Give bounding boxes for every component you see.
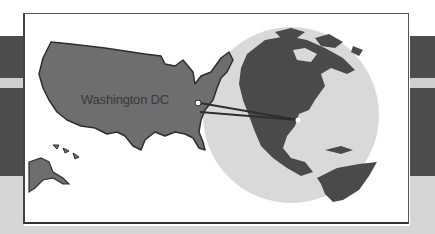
right-dark-band [410,36,435,78]
left-dark-band-2 [0,58,24,78]
left-light-stripe [0,78,24,88]
left-dark-band-3 [0,88,24,176]
bottom-strip [0,226,435,234]
globe-marker-icon [296,118,301,123]
us-map-icon [29,42,233,192]
right-dark-band-2 [410,88,435,176]
dc-marker-icon [195,100,201,106]
right-light-stripe [410,78,435,88]
map-illustration [25,14,411,225]
left-dark-band [0,36,24,58]
illustration-panel [23,13,409,224]
location-label: Washington DC [81,92,169,107]
